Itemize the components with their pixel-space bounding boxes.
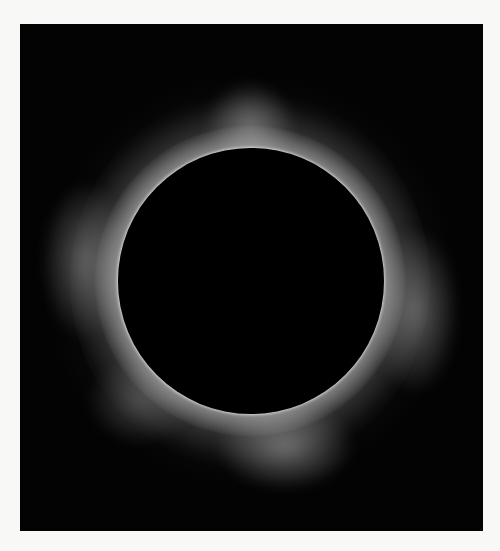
moon-disk xyxy=(118,148,384,414)
page xyxy=(0,0,500,551)
eclipse-photo xyxy=(20,24,483,531)
